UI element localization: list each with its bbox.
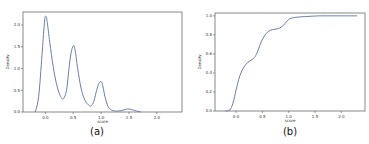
- panel-b-axes-frame: [215, 13, 365, 111]
- panel-b-y-tick-label: 1.0: [206, 13, 213, 18]
- panel-b-x-tick-label: 2.0: [338, 114, 345, 119]
- panel-b-x-tick-label: 1.5: [312, 114, 319, 119]
- panel-b-series-line: [226, 16, 358, 111]
- panel-b-x-axis-label: score: [285, 118, 296, 123]
- panel-b-y-axis-label: Density: [197, 54, 202, 70]
- panel-a-y-tick-label: 1.0: [14, 66, 21, 71]
- panel-a-axes-frame: [23, 12, 182, 112]
- panel-b-y-tick-label: 0.0: [206, 108, 213, 113]
- panel-a-y-tick-label: 2.0: [14, 22, 21, 27]
- panel-a-y-tick-label: 0.0: [14, 109, 21, 114]
- panel-a-y-tick-label: 1.5: [14, 44, 21, 49]
- panel-a-series-line: [35, 16, 141, 112]
- figure: 0.00.51.01.52.00.00.51.01.52.0scoreDensi…: [0, 0, 369, 144]
- panel-a-caption: (a): [90, 126, 104, 137]
- panel-b-y-tick-label: 0.4: [206, 70, 213, 75]
- panel-a-x-tick-label: 0.0: [42, 115, 49, 120]
- panel-a-x-axis-label: score: [97, 119, 108, 124]
- panel-a-x-tick-label: 0.5: [70, 115, 77, 120]
- panel-a-x-tick-label: 1.5: [126, 115, 133, 120]
- panel-b-y-tick-label: 0.6: [206, 51, 213, 56]
- panel-b-x-tick-label: 0.0: [233, 114, 240, 119]
- panel-b-x-tick-label: 0.5: [259, 114, 266, 119]
- panel-b-y-tick-label: 0.8: [206, 32, 213, 37]
- panel-a-y-axis-label: Density: [5, 54, 10, 70]
- panel-b-y-tick-label: 0.2: [206, 89, 213, 94]
- panel-b-caption: (b): [283, 126, 297, 137]
- panel-a-x-tick-label: 2.0: [154, 115, 161, 120]
- panel-a-y-tick-label: 0.5: [14, 88, 21, 93]
